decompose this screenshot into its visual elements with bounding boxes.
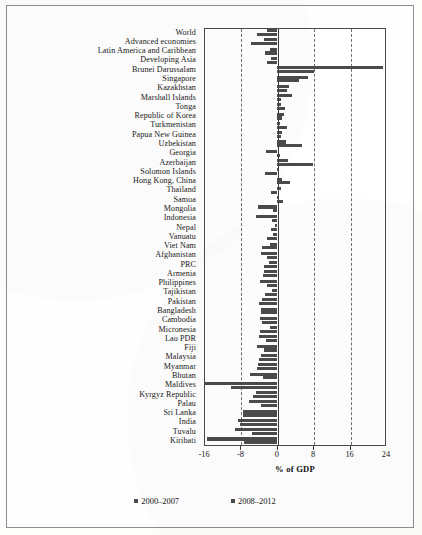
bar-series-1 xyxy=(264,270,277,273)
bar-series-2 xyxy=(267,284,277,287)
category-label: Advanced economies xyxy=(14,37,200,46)
bar-row xyxy=(204,269,386,278)
bar-series-1 xyxy=(277,66,383,69)
bar-series-2 xyxy=(243,413,277,416)
x-tick-label: -16 xyxy=(198,450,209,459)
bar-series-1 xyxy=(257,345,277,348)
category-label: Philippines xyxy=(14,279,200,288)
bar-series-1 xyxy=(250,373,277,376)
bar-series-1 xyxy=(256,215,276,218)
category-label: Nepal xyxy=(14,223,200,232)
bar-row xyxy=(204,47,386,56)
bar-row xyxy=(204,121,386,130)
bar-row xyxy=(204,297,386,306)
bar-row xyxy=(204,334,386,343)
bar-series-2 xyxy=(277,126,287,129)
bar-series-1 xyxy=(256,391,277,394)
bar-series-1 xyxy=(277,94,292,97)
bar-series-1 xyxy=(269,261,277,264)
bar-row xyxy=(204,279,386,288)
bar-series-2 xyxy=(277,154,280,157)
bar-series-1 xyxy=(277,159,288,162)
category-label: Latin America and Caribbean xyxy=(14,47,200,56)
category-label: Myanmar xyxy=(14,362,200,371)
legend-item-series-2: 2008–2012 xyxy=(231,497,276,506)
bar-series-2 xyxy=(257,33,277,36)
bar-row xyxy=(204,399,386,408)
legend-swatch-icon xyxy=(134,499,138,503)
category-label: Tuvalu xyxy=(14,427,200,436)
bar-row xyxy=(204,251,386,260)
category-label: Brunei Darussalam xyxy=(14,65,200,74)
bar-series-1 xyxy=(277,85,289,88)
category-label: Bhutan xyxy=(14,371,200,380)
bar-series-1 xyxy=(261,252,277,255)
category-label: Singapore xyxy=(14,74,200,83)
category-label: Kiribati xyxy=(14,436,200,445)
bar-series-1 xyxy=(277,103,281,106)
category-label: Armenia xyxy=(14,269,200,278)
bar-series-1 xyxy=(272,289,277,292)
bar-series-2 xyxy=(265,172,276,175)
bar-series-1 xyxy=(262,298,277,301)
bar-row xyxy=(204,84,386,93)
bar-series-2 xyxy=(267,61,277,64)
bar-row xyxy=(204,167,386,176)
bar-series-2 xyxy=(231,386,277,389)
bar-row xyxy=(204,260,386,269)
x-axis-title: % of GDP xyxy=(204,464,386,474)
bar-series-1 xyxy=(260,317,277,320)
bar-series-2 xyxy=(277,144,302,147)
bar-series-2 xyxy=(253,395,277,398)
bar-row xyxy=(204,325,386,334)
bar-series-1 xyxy=(275,224,277,227)
bar-series-2 xyxy=(259,302,277,305)
bar-row xyxy=(204,177,386,186)
bar-row xyxy=(204,204,386,213)
legend-label: 2000–2007 xyxy=(141,497,179,506)
bar-row xyxy=(204,130,386,139)
category-label: Hong Kong, China xyxy=(14,177,200,186)
bar-row xyxy=(204,214,386,223)
bar-row xyxy=(204,362,386,371)
bar-row xyxy=(204,353,386,362)
bar-row xyxy=(204,316,386,325)
bar-series-2 xyxy=(265,293,277,296)
bar-row xyxy=(204,186,386,195)
chart-legend: 2000–2007 2008–2012 xyxy=(14,497,396,506)
category-label: Republic of Korea xyxy=(14,112,200,121)
bar-row xyxy=(204,158,386,167)
bar-series-1 xyxy=(277,168,279,171)
bars-layer xyxy=(204,28,386,446)
bar-series-1 xyxy=(204,382,277,385)
bar-row xyxy=(204,418,386,427)
bar-row xyxy=(204,37,386,46)
bar-row xyxy=(204,436,386,445)
bar-series-1 xyxy=(270,326,277,329)
x-axis: -16-8081624 xyxy=(204,446,386,464)
category-label: Cambodia xyxy=(14,316,200,325)
bar-row xyxy=(204,102,386,111)
bar-series-2 xyxy=(261,311,277,314)
category-label: India xyxy=(14,418,200,427)
bar-series-1 xyxy=(235,428,277,431)
category-label: Georgia xyxy=(14,149,200,158)
bar-row xyxy=(204,56,386,65)
bar-row xyxy=(204,195,386,204)
bar-series-1 xyxy=(249,400,277,403)
x-tick-label: 16 xyxy=(345,450,353,459)
bar-series-1 xyxy=(267,29,277,32)
bar-series-2 xyxy=(259,358,277,361)
bar-series-1 xyxy=(277,76,308,79)
legend-label: 2008–2012 xyxy=(238,497,276,506)
bar-series-2 xyxy=(240,423,276,426)
bar-series-2 xyxy=(265,51,277,54)
bar-series-2 xyxy=(262,246,277,249)
bar-series-2 xyxy=(263,274,277,277)
bar-series-1 xyxy=(258,363,277,366)
x-tick-label: 24 xyxy=(382,450,390,459)
category-label: Samoa xyxy=(14,195,200,204)
bar-series-2 xyxy=(277,70,314,73)
bar-series-2 xyxy=(277,181,290,184)
bar-series-2 xyxy=(261,404,277,407)
